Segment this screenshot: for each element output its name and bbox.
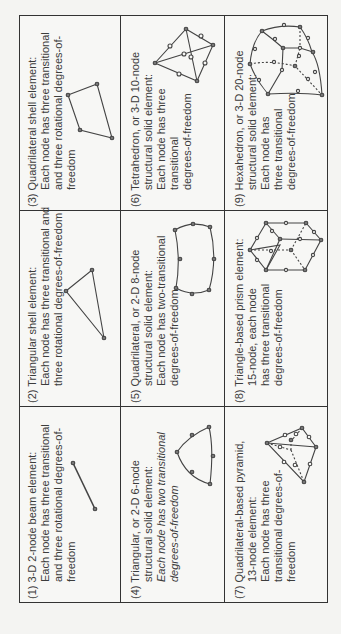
tetrahedron-10node-icon [153, 27, 215, 83]
pyramid-13node-icon [265, 426, 318, 484]
beam-element-icon [71, 461, 97, 511]
element-figures [0, 0, 341, 634]
quadrilateral-shell-icon [66, 82, 114, 140]
triangle-prism-15node-icon [248, 221, 323, 272]
triangular-shell-icon [64, 268, 106, 340]
hexahedron-20node-icon [248, 23, 324, 96]
quadrilateral-8node-solid-icon [173, 222, 216, 296]
triangular-6node-solid-icon [175, 425, 215, 486]
